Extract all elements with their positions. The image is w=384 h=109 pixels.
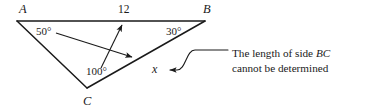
side-BC [87, 21, 205, 88]
side-AC [17, 21, 87, 88]
angle-label-B: 30° [166, 26, 181, 37]
vertex-label-B: B [203, 3, 211, 16]
side-label-BC-variable: x [152, 63, 157, 75]
leader-line-to-x [170, 50, 228, 70]
vertex-label-A: A [19, 3, 27, 16]
geometry-figure: A B C 50° 30° 100° 12 x The length of si… [0, 0, 384, 109]
annotation-line-1: The length of side BC [232, 46, 382, 61]
side-label-AB: 12 [118, 4, 130, 16]
vertex-label-C: C [83, 95, 91, 108]
annotation-line-1-italic: BC [316, 47, 330, 59]
arrow-from-angle-C-to-side-AB [101, 25, 122, 68]
arrow-from-angle-A-to-side-BC [56, 33, 132, 57]
annotation-line-2: cannot be determined [232, 61, 382, 76]
angle-label-A: 50° [36, 26, 51, 37]
angle-label-C: 100° [86, 66, 107, 77]
annotation-line-1-prefix: The length of side [232, 47, 316, 59]
annotation-text: The length of side BC cannot be determin… [232, 46, 382, 77]
